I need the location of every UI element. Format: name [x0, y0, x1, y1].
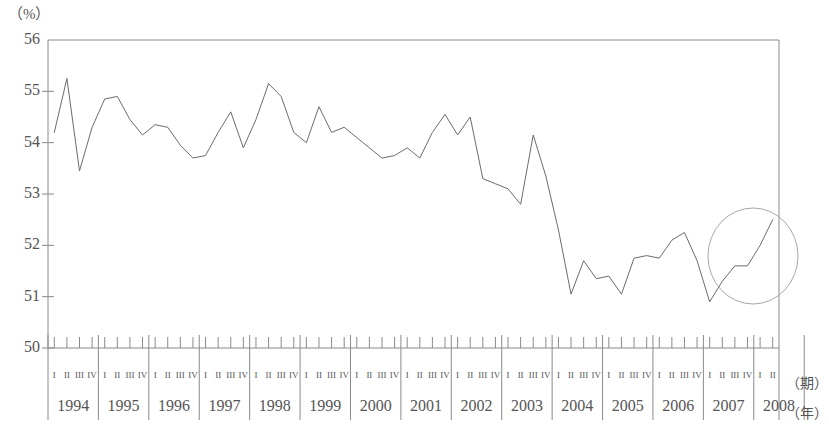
x-axis-year-label-item: 2000 [350, 398, 400, 414]
x-axis-year-label-item: 1997 [199, 398, 249, 414]
x-axis-year-label-item: 2002 [451, 398, 501, 414]
y-axis-tick-label: 53 [0, 185, 40, 201]
data-series-line [54, 79, 772, 302]
x-axis-year-label-item: 2004 [552, 398, 602, 414]
x-axis-year-label-item: 1996 [149, 398, 199, 414]
y-axis-tick-label: 55 [0, 82, 40, 98]
x-axis-year-label-item: 1994 [48, 398, 98, 414]
x-axis-quarter-label: II [766, 371, 780, 380]
x-axis-year-label-item: 2001 [401, 398, 451, 414]
y-axis-tick-label: 52 [0, 236, 40, 252]
y-axis-tick-label: 50 [0, 339, 40, 355]
x-axis-year-label-item: 2003 [502, 398, 552, 414]
y-axis-tick-label: 56 [0, 31, 40, 47]
y-axis-tick-label: 51 [0, 288, 40, 304]
x-axis-year-label-item: 2005 [603, 398, 653, 414]
chart-plot-area [0, 0, 829, 431]
x-axis-year-label-item: 2007 [703, 398, 753, 414]
x-axis-year-label-item: 2006 [653, 398, 703, 414]
x-axis-period-label: （期） [786, 372, 828, 392]
chart-root: （%） 50515253545556 IIIIIIIVIIIIIIIVIIIII… [0, 0, 829, 431]
y-axis-unit-label: （%） [8, 2, 51, 23]
x-axis-year-label: （年） [786, 402, 828, 422]
x-axis-year-label-item: 1999 [300, 398, 350, 414]
x-axis-year-label-item: 1998 [250, 398, 300, 414]
y-axis-tick-label: 54 [0, 134, 40, 150]
x-axis-year-label-item: 1995 [98, 398, 148, 414]
